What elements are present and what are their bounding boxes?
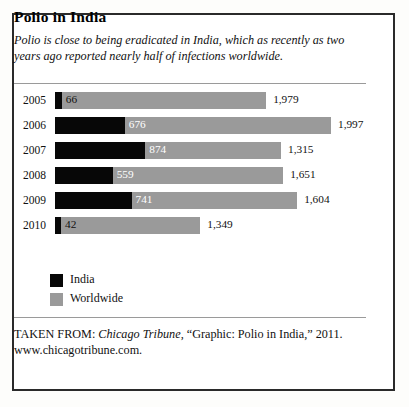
bar-segment-india [55,167,113,184]
chart-row: 20066761,997 [0,115,379,140]
figure-title: Polio in India [14,8,106,26]
year-axis-label: 2008 [12,169,46,181]
stacked-bar [55,92,266,109]
year-axis-label: 2007 [12,144,46,156]
value-label-worldwide: 1,651 [290,168,315,180]
bar-segment-india [55,142,145,159]
chart-row: 20085591,651 [0,165,379,190]
figure-card: Polio in India Polio is close to being e… [0,0,409,407]
divider-top [14,83,366,84]
source-prefix: TAKEN FROM: [14,327,98,341]
bar-segment-worldwide [62,92,266,109]
legend-label: Worldwide [70,291,123,306]
value-label-worldwide: 1,979 [273,93,298,105]
source-rest: , “Graphic: Polio in India,” 2011. [181,327,343,341]
stacked-bar [55,142,281,159]
bar-segment-india [55,192,132,209]
year-axis-label: 2010 [12,219,46,231]
stacked-bar [55,217,200,234]
value-label-india: 741 [136,193,153,205]
value-label-india: 874 [149,143,166,155]
value-label-india: 676 [129,118,146,130]
value-label-worldwide: 1,349 [207,218,232,230]
bar-segment-worldwide [61,217,200,234]
value-label-india: 559 [117,168,134,180]
source-publication: Chicago Tribune [98,327,180,341]
year-axis-label: 2005 [12,94,46,106]
stacked-bar [55,167,283,184]
value-label-india: 42 [65,218,76,230]
value-label-worldwide: 1,315 [288,143,313,155]
chart-row: 20097411,604 [0,190,379,215]
bar-segment-worldwide [132,192,298,209]
year-axis-label: 2006 [12,119,46,131]
legend-swatch-worldwide [50,293,63,306]
divider-bottom [14,317,366,318]
chart-row: 2010421,349 [0,215,379,240]
value-label-worldwide: 1,997 [338,118,363,130]
source-url: www.chicagotribune.com. [14,343,142,357]
legend-label: India [70,272,95,287]
bar-segment-india [55,92,62,109]
source-attribution: TAKEN FROM: Chicago Tribune, “Graphic: P… [14,326,370,358]
value-label-worldwide: 1,604 [304,193,329,205]
bar-segment-india [55,117,125,134]
bar-segment-worldwide [125,117,331,134]
value-label-india: 66 [66,93,77,105]
stacked-bar [55,192,297,209]
chart-row: 2005661,979 [0,90,379,115]
legend-swatch-india [50,274,63,287]
figure-subtitle: Polio is close to being eradicated in In… [14,33,366,64]
year-axis-label: 2009 [12,194,46,206]
chart-row: 20078741,315 [0,140,379,165]
bar-segment-worldwide [113,167,283,184]
stacked-bar [55,117,331,134]
